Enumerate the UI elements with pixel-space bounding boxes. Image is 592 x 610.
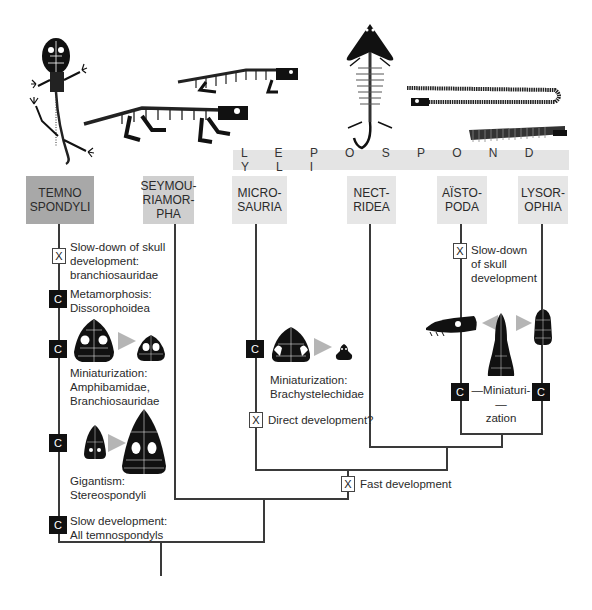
x-marker: X: [249, 412, 263, 428]
taxon-lysorophia: LYSOR- OPHIA: [518, 176, 568, 224]
x-marker: X: [341, 476, 355, 492]
large-skull-icon: [120, 408, 168, 476]
event-aisto-lyso-miniaturization: —Miniaturi-— zation: [470, 383, 532, 425]
arrow-right-icon: [314, 338, 332, 356]
large-skull-icon: [270, 326, 312, 364]
seymouriamorph-skeleton-lower-icon: [82, 96, 250, 148]
node-nect-aisto: [369, 446, 503, 448]
event-aisto-slowdown: Slow-down of skull development: [471, 243, 537, 285]
event-fast-development: Fast development: [360, 477, 451, 491]
taxon-temnospondyli: TEMNO SPONDYLI: [26, 176, 94, 224]
taxon-aistopoda: AÏSTO- PODA: [437, 176, 487, 224]
event-temno-slow-development: Slow development: All temnospondyls: [70, 514, 167, 542]
lysorophian-skeleton-icon: [465, 120, 570, 146]
c-marker: C: [246, 340, 264, 358]
node-micro-rest: [255, 469, 448, 471]
tiny-skull-icon: [334, 343, 354, 361]
root-stem: [160, 542, 162, 576]
x-marker: X: [453, 243, 467, 259]
arrow-right-icon: [118, 332, 136, 350]
small-skull-icon: [136, 334, 166, 362]
taxon-seymouriamorpha: SEYMOU- RIAMOR- PHA: [143, 176, 194, 224]
c-marker: C: [451, 383, 469, 401]
branch-temnospondyli: [58, 224, 60, 542]
narrow-skull-icon: [532, 308, 554, 346]
small-skull-icon: [83, 424, 107, 460]
lateral-skull-icon: [424, 312, 480, 338]
node-seymouria-lepo: [174, 498, 349, 500]
c-marker: C: [49, 340, 67, 358]
event-temno-gigantism: Gigantism: Stereospondyli: [70, 474, 146, 502]
event-micro-miniaturization: Miniaturization: Brachystelechidae: [270, 373, 364, 401]
stem-aisto-lyso: [501, 434, 503, 446]
lepospondyli-clade-label: L E P O S P O N D Y L I: [233, 150, 569, 170]
c-marker: C: [49, 434, 67, 452]
c-marker: C: [49, 516, 67, 534]
nectridean-skeleton-icon: [340, 22, 400, 150]
event-temno-metamorphosis: Metamorphosis: Dissorophoidea: [70, 287, 152, 315]
arrow-right-icon: [516, 315, 532, 331]
seymouriamorph-skeleton-upper-icon: [176, 62, 301, 98]
event-temno-miniaturization: Miniaturization: Amphibamidae, Branchios…: [70, 366, 160, 408]
stem-seymouria-lepo: [263, 499, 265, 542]
branch-seymouriamorpha: [174, 224, 176, 499]
c-marker: C: [49, 290, 67, 308]
taxon-nectridea: NECT- RIDEA: [347, 176, 396, 224]
x-marker: X: [52, 248, 66, 264]
large-skull-icon: [72, 318, 116, 364]
c-marker: C: [532, 383, 550, 401]
stem-nect-aisto: [446, 447, 448, 471]
aistopod-skeleton-icon: [405, 84, 565, 112]
event-micro-direct-development: Direct development?: [268, 413, 373, 427]
elongated-skull-icon: [486, 312, 516, 378]
taxon-microsauria: MICRO- SAURIA: [232, 176, 287, 224]
event-temno-slowdown: Slow-down of skull development: branchio…: [70, 240, 165, 282]
